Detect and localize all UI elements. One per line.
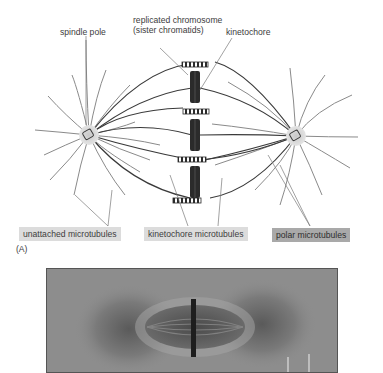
unattached-microtubules-label: unattached microtubules	[19, 227, 121, 241]
left-spindle-pole	[79, 125, 99, 145]
mitotic-spindle-diagram	[0, 0, 383, 265]
left-astral-microtubules	[35, 40, 160, 195]
replicated-chromosome-label: replicated chromosome (sister chromatids…	[133, 15, 223, 35]
kinetochore-label: kinetochore	[226, 27, 270, 37]
right-spindle-pole	[286, 126, 306, 146]
spindle-micrograph	[46, 268, 338, 373]
right-astral-microtubules	[212, 68, 358, 205]
metaphase-plate	[191, 299, 196, 357]
replicated-chromosomes	[190, 71, 200, 198]
spindle-pole-label: spindle pole	[60, 27, 106, 37]
panel-label-a: (A)	[16, 244, 27, 254]
kinetochore-microtubules-label: kinetochore microtubules	[144, 227, 248, 241]
polar-microtubules-label: polar microtubules	[272, 228, 350, 242]
